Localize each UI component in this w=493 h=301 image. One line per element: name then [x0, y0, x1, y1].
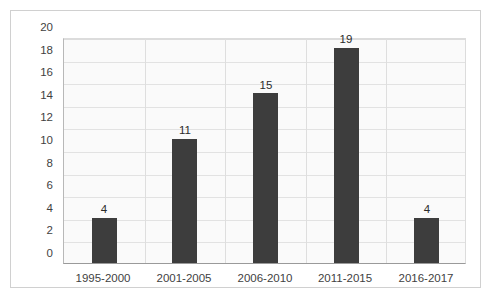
bar-value-label: 11: [179, 125, 191, 137]
plot-area: 41115194: [63, 38, 466, 264]
x-axis-tick-label: 2016-2017: [399, 273, 454, 285]
y-axis-tick-label: 2: [47, 226, 53, 238]
y-axis-tick-label: 20: [40, 22, 53, 34]
y-axis-tick-labels: 02468101214161820: [11, 11, 63, 301]
bar-value-label: 4: [101, 204, 107, 216]
chart-frame: 02468101214161820 41115194 1995-20002001…: [10, 10, 481, 288]
bar: [414, 218, 439, 263]
x-axis-tick-label: 2006-2010: [238, 273, 293, 285]
bar-value-label: 19: [340, 34, 353, 46]
bar: [334, 48, 359, 263]
bar-chart: 02468101214161820 41115194 1995-20002001…: [0, 0, 493, 301]
x-axis-tick-label: 2001-2005: [157, 273, 212, 285]
bars-layer: 41115194: [64, 39, 465, 263]
x-axis-tick-label: 1995-2000: [76, 273, 131, 285]
y-axis-tick-label: 16: [40, 67, 53, 79]
y-axis-tick-label: 12: [40, 113, 53, 125]
bar: [253, 93, 278, 263]
bar: [92, 218, 117, 263]
y-axis-tick-label: 18: [40, 45, 53, 57]
y-axis-tick-label: 10: [40, 135, 53, 147]
bar: [172, 139, 197, 263]
y-axis-tick-label: 6: [47, 180, 53, 192]
x-axis-category-labels: 1995-20002001-20052006-20102011-20152016…: [63, 273, 466, 291]
bar-value-label: 4: [424, 204, 430, 216]
y-axis-tick-label: 4: [47, 203, 53, 215]
y-axis-tick-label: 14: [40, 90, 53, 102]
x-axis-tick-label: 2011-2015: [318, 273, 372, 285]
y-axis-tick-label: 0: [47, 248, 53, 260]
bar-value-label: 15: [260, 80, 273, 92]
y-axis-tick-label: 8: [47, 158, 53, 170]
